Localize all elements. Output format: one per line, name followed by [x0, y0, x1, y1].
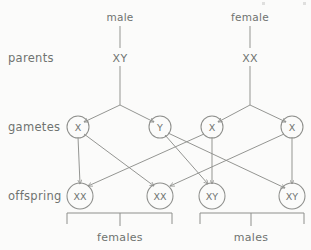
bracket-females	[67, 213, 172, 226]
offspring-genotype-xy-1: XY	[206, 191, 219, 202]
bracket-males	[200, 213, 304, 226]
diagram-canvas: parents gametes offspring male XY female…	[0, 0, 311, 250]
parent-genotype-male: XY	[113, 52, 128, 65]
offspring-genotype-xx-1: XX	[73, 191, 87, 202]
gamete-allele-male-y: Y	[156, 122, 163, 133]
gamete-allele-female-x-2: X	[289, 122, 296, 133]
parent-sex-label-female: female	[231, 11, 269, 23]
parent-sex-label-male: male	[106, 11, 133, 23]
parent-genotype-female: XX	[242, 52, 258, 65]
inheritance-diagram-svg: parents gametes offspring male XY female…	[0, 0, 311, 250]
group-label-males: males	[234, 231, 269, 244]
meiosis-fork-male	[84, 66, 154, 122]
fertilization-links	[78, 133, 292, 188]
offspring-genotype-xy-2: XY	[286, 191, 299, 202]
group-label-females: females	[97, 231, 143, 244]
offspring-genotype-xx-2: XX	[153, 191, 167, 202]
meiosis-fork-female	[218, 66, 286, 122]
stage-label-parents: parents	[8, 51, 54, 65]
gamete-allele-female-x-1: X	[209, 122, 216, 133]
stage-label-gametes: gametes	[8, 120, 60, 134]
stage-label-offspring: offspring	[8, 189, 62, 203]
gamete-allele-male-x: X	[75, 122, 82, 133]
